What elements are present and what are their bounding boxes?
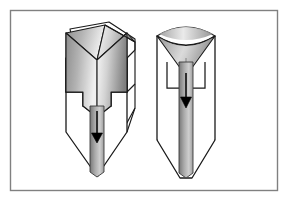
diagram-canvas xyxy=(0,0,288,203)
figure-root: Shaped charge liner cross-sections Two s… xyxy=(0,0,288,203)
figure-border xyxy=(11,11,278,191)
